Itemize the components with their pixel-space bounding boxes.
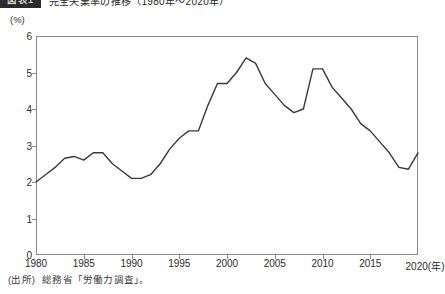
x-axis-tick-label: 2015 [359, 258, 381, 269]
x-axis-tick-label: 2005 [264, 258, 286, 269]
source-note: (出所) 総務省「労働力調査」。 [8, 272, 149, 286]
x-axis-tick-mark [323, 255, 324, 259]
x-axis-tick-mark [132, 255, 133, 259]
x-axis-tick-label: 2000 [216, 258, 238, 269]
source-prefix: (出所) [8, 272, 35, 286]
x-axis-tick-mark [84, 255, 85, 259]
x-axis-tick-mark [370, 255, 371, 259]
x-axis-tick-label: 1995 [168, 258, 190, 269]
source-text: 総務省「労働力調査」。 [42, 272, 149, 286]
x-axis-tick-label: 2010 [311, 258, 333, 269]
x-axis-tick-label: 2020(年) [406, 258, 445, 273]
x-axis-ticks: 198019851990199520002005201020152020(年) [0, 0, 445, 294]
x-axis-tick-mark [179, 255, 180, 259]
x-axis-tick-mark [275, 255, 276, 259]
x-axis-tick-label: 1980 [25, 258, 47, 269]
x-axis-tick-label: 1985 [73, 258, 95, 269]
x-axis-tick-mark [227, 255, 228, 259]
x-axis-tick-label: 1990 [120, 258, 142, 269]
